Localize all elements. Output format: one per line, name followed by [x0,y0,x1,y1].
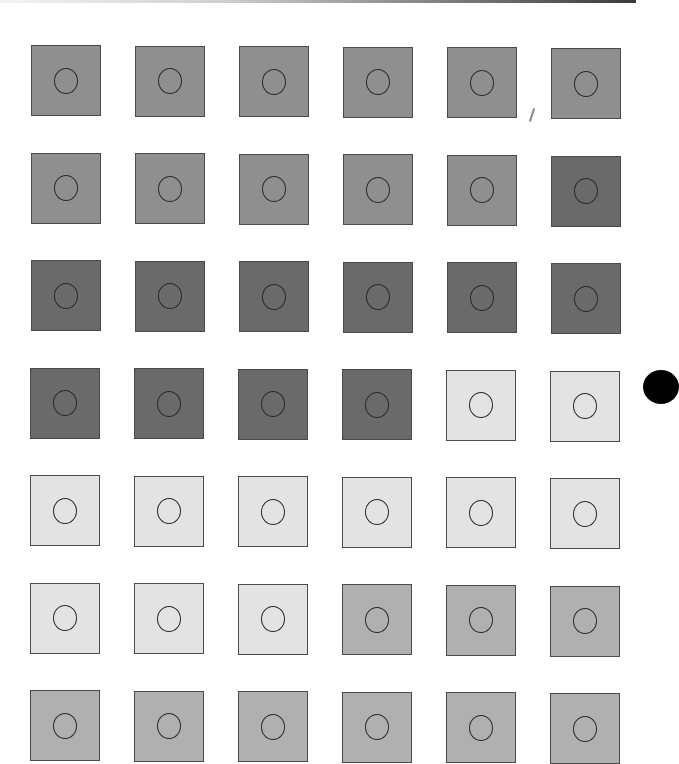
swatch-tile [342,369,412,440]
swatch-tile [550,693,620,764]
swatch-tile [550,371,620,442]
swatch-tile [446,585,516,656]
swatch-tile [31,260,101,331]
swatch-tile [239,46,309,117]
swatch-tile [447,47,517,118]
swatch-tile [343,262,413,333]
circle-icon [470,70,494,96]
circle-icon [53,605,77,631]
circle-icon [365,392,389,418]
circle-icon [469,607,493,633]
swatch-tile [343,154,413,225]
circle-icon [53,498,77,524]
swatch-tile [30,475,100,546]
circle-icon [365,714,389,740]
circle-icon [158,176,182,202]
circle-icon [261,391,285,417]
circle-icon [573,393,597,419]
swatch-tile [134,691,204,762]
circle-icon [262,69,286,95]
circle-icon [261,499,285,525]
swatch-tile [342,584,412,655]
circle-icon [261,714,285,740]
swatch-tile [239,261,309,332]
circle-icon [158,68,182,94]
swatch-tile [551,263,621,334]
circle-icon [365,607,389,633]
circle-icon [366,284,390,310]
swatch-tile [134,476,204,547]
swatch-tile [343,47,413,118]
circle-icon [158,283,182,309]
circle-icon [157,498,181,524]
swatch-tile [239,154,309,225]
circle-icon [157,606,181,632]
swatch-tile [550,586,620,657]
circle-icon [157,391,181,417]
swatch-tile [551,48,621,119]
swatch-tile [135,261,205,332]
circle-icon [157,713,181,739]
swatch-tile [135,46,205,117]
circle-icon [574,71,598,97]
black-dot-marker [643,370,679,404]
swatch-tile [31,153,101,224]
circle-icon [574,178,598,204]
circle-icon [54,283,78,309]
swatch-tile [550,478,620,549]
swatch-tile [446,477,516,548]
circle-icon [53,390,77,416]
swatch-tile [134,583,204,654]
circle-icon [53,713,77,739]
swatch-tile [342,477,412,548]
circle-icon [54,175,78,201]
swatch-tile [30,583,100,654]
swatch-tile [446,370,516,441]
circle-icon [262,176,286,202]
swatch-tile [447,262,517,333]
swatch-tile [551,156,621,227]
swatch-tile [135,153,205,224]
swatch-tile [30,690,100,761]
circle-icon [573,716,597,742]
circle-icon [574,286,598,312]
swatch-tile [238,369,308,440]
circle-icon [573,608,597,634]
swatch-tile [342,692,412,763]
swatch-tile [30,368,100,439]
circle-icon [366,69,390,95]
swatch-tile [31,45,101,116]
circle-icon [469,392,493,418]
swatch-tile [134,368,204,439]
circle-icon [470,177,494,203]
circle-icon [470,285,494,311]
circle-icon [469,715,493,741]
circle-icon [261,606,285,632]
circle-icon [469,500,493,526]
circle-icon [366,177,390,203]
swatch-tile [447,155,517,226]
swatch-tile [446,692,516,763]
swatch-tile [238,584,308,655]
circle-icon [262,284,286,310]
circle-icon [54,68,78,94]
swatch-tile [238,691,308,762]
circle-icon [573,501,597,527]
circle-icon [365,499,389,525]
swatch-tile [238,476,308,547]
